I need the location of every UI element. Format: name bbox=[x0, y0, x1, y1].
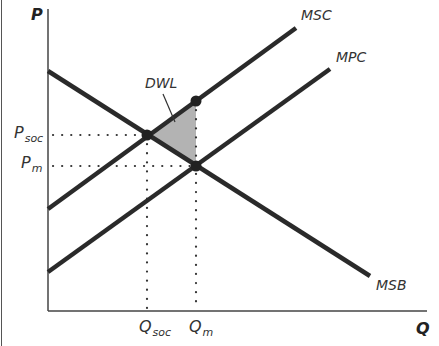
q-m-sub: m bbox=[203, 326, 214, 339]
social-optimum-point bbox=[142, 130, 153, 141]
p-m-sub: m bbox=[32, 162, 43, 175]
dwl-pointer bbox=[163, 94, 175, 122]
p-m-main: P bbox=[21, 153, 31, 172]
y-axis-label: P bbox=[31, 5, 43, 24]
mpc-label: MPC bbox=[336, 49, 366, 65]
q-m-label: Qm bbox=[189, 317, 213, 336]
msc-label: MSC bbox=[301, 7, 332, 23]
q-soc-label: Qsoc bbox=[139, 317, 171, 336]
diagram-canvas bbox=[0, 0, 439, 346]
externality-diagram: P Q MSC MPC MSB DWL Psoc Pm Qsoc Qm bbox=[0, 0, 439, 346]
dwl-label: DWL bbox=[145, 75, 177, 91]
x-axis-label: Q bbox=[416, 319, 430, 338]
p-soc-sub: soc bbox=[25, 132, 44, 145]
market-equilibrium-point bbox=[191, 161, 202, 172]
msb-label: MSB bbox=[376, 277, 407, 293]
q-soc-main: Q bbox=[139, 317, 152, 336]
q-soc-sub: soc bbox=[153, 326, 172, 339]
p-soc-main: P bbox=[14, 123, 24, 142]
p-m-label: Pm bbox=[21, 153, 42, 172]
p-soc-label: Psoc bbox=[14, 123, 43, 142]
q-m-main: Q bbox=[189, 317, 202, 336]
msc-at-qm-point bbox=[191, 96, 202, 107]
